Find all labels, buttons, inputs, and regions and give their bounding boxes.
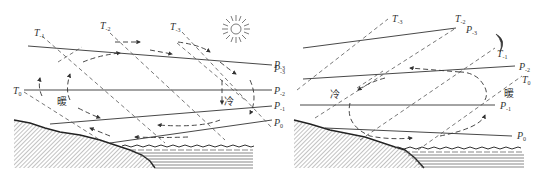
- circulation-right: [349, 68, 486, 139]
- label-T0-left: T0: [13, 86, 22, 97]
- label-T0-right: T0: [522, 75, 531, 86]
- label-T-1-right: T-1: [497, 49, 508, 60]
- label-P-2-mid: P-2: [274, 86, 285, 97]
- sun-icon: [222, 15, 250, 43]
- cold-label-left: 冷: [224, 97, 234, 107]
- land-left: [14, 120, 155, 168]
- cold-label-right: 冷: [330, 90, 340, 100]
- label-P-3-mid: P-3: [274, 64, 285, 75]
- label-P0-mid: P0: [274, 118, 283, 129]
- label-P-1-mid: P-1: [274, 101, 285, 112]
- label-P-1-right: P-1: [500, 101, 511, 112]
- right-panel: [294, 19, 524, 168]
- isobars-right: [300, 28, 515, 136]
- label-P-3-right: P-3: [466, 25, 477, 36]
- label-T-3-left: T-3: [170, 22, 181, 33]
- warm-label-left: 暖: [57, 97, 67, 107]
- warm-label-right: 暖: [504, 89, 514, 99]
- land-right: [294, 120, 424, 168]
- label-T-2-left: T-2: [100, 21, 111, 32]
- label-P-2-right: P-2: [519, 62, 530, 73]
- label-P0-right: P0: [517, 131, 526, 142]
- left-panel: [14, 15, 272, 168]
- label-T-1-left: T-1: [34, 28, 45, 39]
- sea-land-breeze-diagram: T-1 T-2 T-3 T0 P-3 暖 冷 P-3 P-2 P-1 P0 T-…: [0, 0, 544, 183]
- diagram-canvas: [0, 0, 544, 183]
- label-T-3-right: T-3: [392, 14, 403, 25]
- label-T-2-right: T-2: [455, 14, 466, 25]
